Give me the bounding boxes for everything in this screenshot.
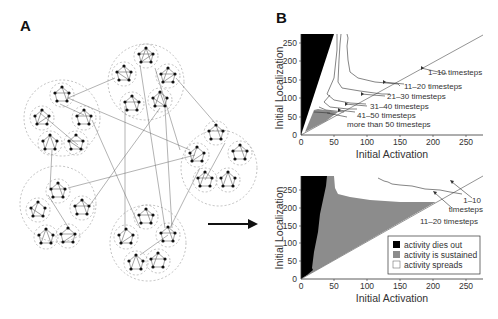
- x-tick: 100: [360, 281, 374, 291]
- y-axis-title: Initial Localization: [273, 186, 285, 269]
- legend-swatch-sustained: [393, 251, 400, 258]
- label-31-40: 31–40 timesteps: [370, 102, 429, 111]
- x-tick: 50: [329, 137, 339, 147]
- panel-b-label: B: [276, 9, 287, 26]
- module-bottom-left: [20, 166, 96, 242]
- x-tick: 0: [299, 137, 304, 147]
- x-tick: 200: [426, 137, 440, 147]
- label-11-20: 11–20 timesteps: [420, 217, 478, 226]
- x-tick: 50: [329, 281, 339, 291]
- y-tick: 250: [283, 38, 297, 48]
- legend-label: activity dies out: [404, 240, 463, 250]
- contour-1-10: [378, 178, 462, 194]
- x-tick: 250: [459, 137, 473, 147]
- label-more-50: more than 50 timesteps: [347, 120, 431, 129]
- legend-label: activity spreads: [404, 260, 463, 270]
- legend-swatch-dies-out: [393, 241, 400, 248]
- x-tick: 250: [459, 281, 473, 291]
- figure: A: [0, 0, 498, 319]
- bottom-plot: 1–10 timesteps 11–20 timesteps activity …: [273, 176, 483, 304]
- module-right: [181, 130, 257, 206]
- y-tick: 50: [288, 112, 298, 122]
- label-41-50: 41–50 timesteps: [357, 111, 416, 120]
- panel-a-label: A: [20, 17, 31, 34]
- label-1-10: 1–10: [463, 196, 481, 205]
- top-plot: 1–10 timesteps 11–20 timesteps 21–30 tim…: [273, 34, 483, 160]
- network-nodes: [29, 46, 248, 270]
- label-11-20: 11–20 timesteps: [404, 82, 462, 91]
- x-axis-title: Initial Activation: [356, 292, 429, 304]
- label-1-10: 1–10 timesteps: [428, 68, 482, 77]
- x-axis-title: Initial Activation: [356, 148, 429, 160]
- x-tick: 0: [299, 281, 304, 291]
- x-tick: 150: [393, 281, 407, 291]
- legend-swatch-spreads: [393, 261, 400, 268]
- x-tick: 100: [360, 137, 374, 147]
- legend-label: activity is sustained: [404, 250, 477, 260]
- y-axis-title: Initial Localization: [273, 46, 285, 129]
- right-arrow-icon: [208, 219, 258, 229]
- x-tick: 200: [426, 281, 440, 291]
- y-tick: 0: [292, 274, 297, 284]
- legend: activity dies out activity is sustained …: [388, 236, 480, 274]
- network-diagram: [20, 44, 257, 281]
- label-21-30: 21–30 timesteps: [387, 92, 446, 101]
- y-tick: 0: [292, 130, 297, 140]
- label-timesteps: timesteps: [449, 205, 483, 214]
- x-tick: 150: [393, 137, 407, 147]
- y-tick: 50: [288, 256, 298, 266]
